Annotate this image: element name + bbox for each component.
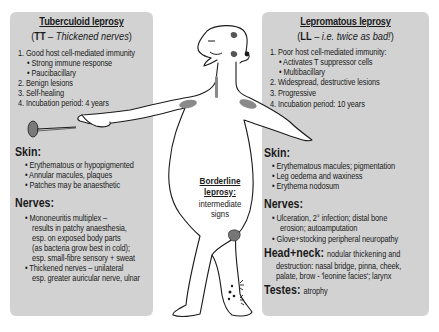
tt-nerves-1e: esp. small-fibre sensory + sweat bbox=[32, 253, 135, 263]
ll-nerves-heading: Nerves: bbox=[264, 197, 303, 211]
borderline-title-1: Borderline bbox=[186, 175, 255, 186]
tuberculoid-title: Tuberculoid leprosy bbox=[19, 15, 145, 27]
tt-item-2: 2. Benign lesions bbox=[18, 78, 73, 88]
pin-icon bbox=[28, 121, 76, 137]
dash: – bbox=[312, 30, 322, 42]
ll-item-4: 4. Incubation period: 10 years bbox=[270, 99, 365, 109]
ll-nerves-2: • Glove+stocking peripheral neuropathy bbox=[272, 234, 398, 244]
borderline-title-2: leprosy: bbox=[186, 186, 255, 197]
tt-abbr: TT bbox=[34, 30, 45, 42]
ll-item-1b: • Multibacillary bbox=[279, 67, 325, 77]
tt-item-3: 3. Self-healing bbox=[18, 88, 64, 98]
ll-head-text-2: destruction: nasal bridge, pinna, cheek, bbox=[276, 261, 401, 271]
tt-item-4: 4. Incubation period: 4 years bbox=[18, 98, 109, 108]
tuberculoid-subtitle: (TT – Thickened nerves) bbox=[19, 30, 145, 42]
ll-item-3: 3. Progressive bbox=[270, 88, 316, 98]
ll-abbr: LL bbox=[300, 30, 311, 42]
tt-description: Thickened nerves bbox=[56, 30, 129, 42]
ll-testes-text: atrophy bbox=[303, 286, 327, 296]
ll-item-1a: • Activates T suppressor cells bbox=[279, 57, 372, 67]
dash: – bbox=[46, 30, 56, 42]
tt-nerves-2b: esp. greater auricular nerve, ulnar bbox=[32, 273, 140, 283]
borderline-desc-1: intermediate bbox=[186, 199, 255, 209]
tt-skin-heading: Skin: bbox=[15, 145, 41, 159]
lepromatous-title: Lepromatous leprosy bbox=[272, 15, 419, 27]
tt-nerves-1: • Mononeuritis multiplex – bbox=[25, 213, 107, 223]
tt-item-1: 1. Good host cell-mediated immunity bbox=[18, 48, 135, 58]
ll-head-neck: Head+neck: nodular thickening and bbox=[264, 246, 400, 260]
ll-testes: Testes: atrophy bbox=[264, 283, 328, 297]
tt-item-1b: • Paucibacillary bbox=[27, 68, 76, 78]
tt-skin-3: • Patches may be anaesthetic bbox=[25, 180, 120, 190]
ll-item-2: 2. Widespread, destructive lesions bbox=[270, 77, 380, 87]
ll-testes-heading: Testes: bbox=[264, 283, 300, 297]
ll-description: i.e. twice as bad! bbox=[322, 30, 391, 42]
tt-nerves-1d: (as bacteria grow best in cold); bbox=[32, 243, 130, 253]
ll-nerves-1: • Ulceration, 2° infection; distal bone bbox=[272, 213, 387, 223]
ll-skin-2: • Leg oedema and waxiness bbox=[272, 171, 362, 181]
ll-head-heading: Head+neck: bbox=[264, 246, 324, 260]
ll-nerves-1b: erosion; autoamputation bbox=[280, 223, 357, 233]
ll-item-1: 1. Poor host cell-mediated immunity: bbox=[270, 47, 386, 57]
tt-item-1a: • Strong immune response bbox=[27, 58, 112, 68]
tt-skin-1: • Erythematous or hypopigmented bbox=[25, 160, 134, 170]
borderline-desc-2: signs bbox=[186, 209, 255, 219]
ll-skin-1: • Erythematous macules; pigmentation bbox=[272, 161, 395, 171]
ll-head-text-3: palate, brow - 'leonine facies'; larynx bbox=[276, 271, 391, 281]
tt-skin-2: • Annular macules, plaques bbox=[25, 170, 112, 180]
ll-head-text-1: nodular thickening and bbox=[327, 249, 401, 259]
lepromatous-subtitle: (LL – i.e. twice as bad!) bbox=[272, 30, 419, 42]
tt-nerves-heading: Nerves: bbox=[15, 196, 54, 210]
ll-skin-3: • Erythema nodosum bbox=[272, 181, 339, 191]
tt-nerves-1c: esp. on exposed body parts bbox=[32, 233, 121, 243]
ll-skin-heading: Skin: bbox=[264, 146, 290, 160]
tt-nerves-2: • Thickened nerves – unilateral bbox=[25, 263, 123, 273]
tt-nerves-1b: results in patchy anaesthesia, bbox=[32, 223, 127, 233]
